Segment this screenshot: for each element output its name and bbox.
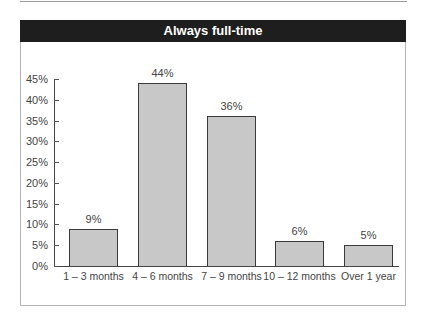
y-tick-label: 30% — [14, 135, 48, 147]
bar-value-label: 36% — [197, 100, 267, 112]
y-tick-label: 0% — [14, 260, 48, 272]
y-tick-mark — [54, 183, 59, 184]
y-tick-mark — [54, 204, 59, 205]
x-category-label: 10 – 12 months — [260, 270, 340, 282]
bar-value-label: 6% — [265, 225, 335, 237]
bar — [69, 229, 118, 266]
bar — [207, 116, 256, 266]
y-tick-label: 25% — [14, 156, 48, 168]
y-tick-label: 10% — [14, 218, 48, 230]
plot-area: 0%5%10%15%20%25%30%35%40%45% 9%1 – 3 mon… — [0, 0, 427, 329]
y-tick-label: 5% — [14, 239, 48, 251]
bar-value-label: 44% — [128, 67, 198, 79]
bar-value-label: 9% — [59, 213, 129, 225]
bar — [344, 245, 393, 266]
x-axis — [54, 266, 399, 267]
y-tick-mark — [54, 100, 59, 101]
y-tick-mark — [54, 141, 59, 142]
y-tick-mark — [54, 162, 59, 163]
x-category-label: 1 – 3 months — [54, 270, 134, 282]
y-tick-mark — [54, 245, 59, 246]
y-tick-label: 20% — [14, 177, 48, 189]
bar-value-label: 5% — [334, 229, 404, 241]
y-tick-label: 15% — [14, 198, 48, 210]
x-category-label: 4 – 6 months — [123, 270, 203, 282]
y-tick-mark — [54, 79, 59, 80]
x-category-label: Over 1 year — [329, 270, 409, 282]
y-tick-mark — [54, 266, 59, 267]
y-axis — [54, 79, 55, 267]
bar — [275, 241, 324, 266]
y-tick-label: 35% — [14, 115, 48, 127]
bar — [138, 83, 187, 266]
y-tick-mark — [54, 121, 59, 122]
y-tick-label: 45% — [14, 73, 48, 85]
y-tick-label: 40% — [14, 94, 48, 106]
